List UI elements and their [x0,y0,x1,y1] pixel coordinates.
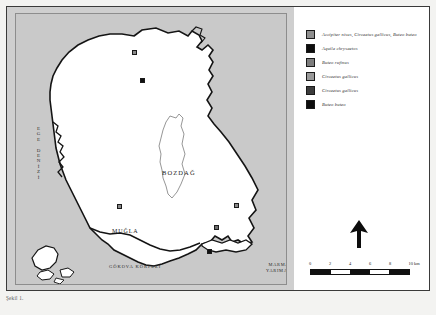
legend-label: Circaetus gallicus [322,74,358,79]
scale-tick-labels: 0 2 4 6 8 10 km [310,261,410,269]
map-panel: BOZDAĞ MUĞLA GÖKOVA KÖRFEZİ EGE DENİZİ M… [7,7,294,290]
scale-unit-label: 10 km [408,261,419,266]
distribution-marker [132,50,137,55]
scale-tick: 4 [349,261,351,266]
legend-item: Accipiter nisus, Circaetus gallicus, But… [306,27,426,41]
legend-item: Circaetus gallicus [306,83,426,97]
legend-item: Aquila chrysaetos [306,41,426,55]
legend-swatch-icon [306,100,315,109]
landmass-coastline [50,28,258,266]
figure-caption: Şekil 1. [6,295,406,301]
scale-block [370,270,390,274]
legend-swatch-icon [306,58,315,67]
legend-label: Circaetus gallicus [322,88,358,93]
scale-block [350,270,370,274]
figure-container: BOZDAĞ MUĞLA GÖKOVA KÖRFEZİ EGE DENİZİ M… [0,0,436,315]
offshore-island-small-b [60,268,74,277]
distribution-marker [117,204,122,209]
legend-label: Accipiter nisus, Circaetus gallicus, But… [322,32,417,37]
legend-item: Buteo buteo [306,97,426,111]
legend-swatch-icon [306,44,315,53]
legend-swatch-icon [306,30,315,39]
scale-block [331,270,351,274]
figure-frame: BOZDAĞ MUĞLA GÖKOVA KÖRFEZİ EGE DENİZİ M… [6,6,430,291]
map-canvas: BOZDAĞ MUĞLA GÖKOVA KÖRFEZİ EGE DENİZİ M… [15,13,287,285]
offshore-island-small-c [54,278,64,284]
offshore-island-small-a [37,270,54,280]
distribution-marker [234,203,239,208]
scale-bar-blocks [310,269,410,275]
scale-tick: 6 [369,261,371,266]
distribution-marker [214,225,219,230]
scale-tick: 2 [329,261,331,266]
offshore-island-large [32,246,58,270]
legend-swatch-icon [306,72,315,81]
scale-bar: 0 2 4 6 8 10 km [310,261,410,275]
legend-label: Buteo rufinus [322,60,349,65]
map-vector [16,14,287,285]
legend-swatch-icon [306,86,315,95]
scale-block [311,270,331,274]
legend-label: Aquila chrysaetos [322,46,358,51]
legend-label: Buteo buteo [322,102,346,107]
distribution-marker [207,249,212,254]
scale-block [389,270,409,274]
distribution-marker [140,78,145,83]
legend-panel: Accipiter nisus, Circaetus gallicus, But… [294,7,429,290]
north-arrow-icon [348,219,370,249]
legend-item: Buteo rufinus [306,55,426,69]
scale-tick: 0 [309,261,311,266]
legend-list: Accipiter nisus, Circaetus gallicus, But… [306,27,426,111]
legend-item: Circaetus gallicus [306,69,426,83]
scale-tick: 8 [389,261,391,266]
